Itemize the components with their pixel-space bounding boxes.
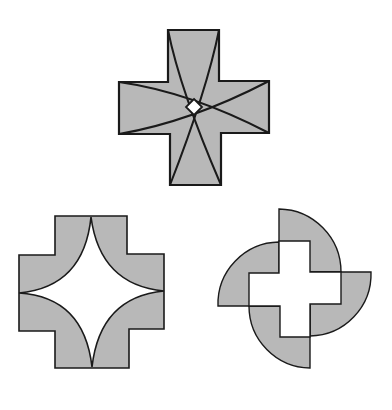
astroid-hole	[19, 217, 164, 367]
cross-with-arcs	[119, 30, 269, 185]
figure-canvas	[0, 0, 392, 410]
cross-with-astroid-hole	[19, 216, 164, 368]
pinwheel-cross	[218, 209, 371, 368]
